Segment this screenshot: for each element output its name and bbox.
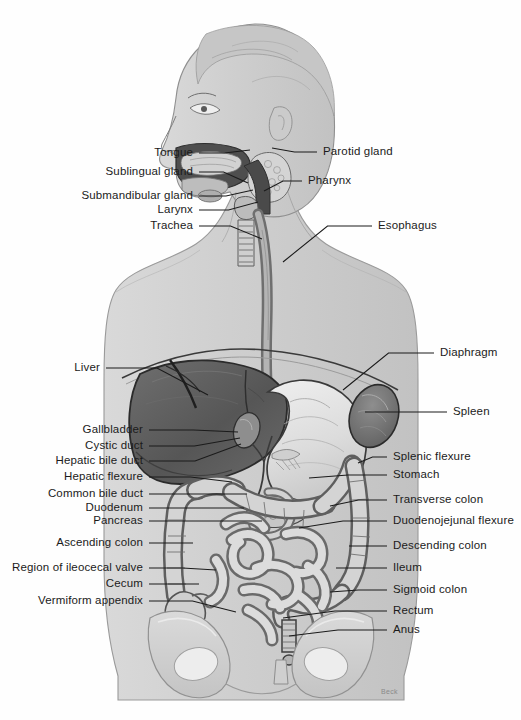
label-common-bile-duct: Common bile duct	[48, 488, 143, 500]
label-vermiform-appendix: Vermiform appendix	[38, 595, 143, 607]
label-trachea: Trachea	[150, 220, 193, 232]
label-diaphragm: Diaphragm	[440, 347, 498, 359]
anatomy-illustration	[0, 0, 521, 720]
label-anus: Anus	[393, 624, 420, 636]
trachea-region	[238, 220, 254, 266]
label-cecum: Cecum	[106, 578, 143, 590]
label-hepatic-flexure: Hepatic flexure	[64, 471, 143, 483]
label-splenic-flexure: Splenic flexure	[393, 451, 471, 463]
label-spleen: Spleen	[453, 406, 490, 418]
label-sublingual-gland: Sublingual gland	[106, 166, 193, 178]
label-submandibular-gland: Submandibular gland	[81, 190, 193, 202]
label-cystic-duct: Cystic duct	[85, 440, 143, 452]
label-rectum: Rectum	[393, 605, 434, 617]
label-sigmoid-colon: Sigmoid colon	[393, 584, 467, 596]
digestive-system-figure: TongueSublingual glandSubmandibular glan…	[0, 0, 521, 720]
label-hepatic-bile-duct: Hepatic bile duct	[55, 455, 143, 467]
label-tongue: Tongue	[154, 147, 193, 159]
label-ileum: Ileum	[393, 562, 422, 574]
label-pharynx: Pharynx	[308, 175, 351, 187]
label-descending-colon: Descending colon	[393, 540, 487, 552]
label-gallbladder: Gallbladder	[83, 424, 143, 436]
label-esophagus: Esophagus	[378, 220, 437, 232]
label-duodenum: Duodenum	[86, 502, 143, 514]
label-ascending-colon: Ascending colon	[56, 537, 143, 549]
label-transverse-colon: Transverse colon	[393, 494, 483, 506]
label-duodenojejunal-flexure: Duodenojejunal flexure	[393, 515, 514, 527]
label-stomach: Stomach	[393, 469, 439, 481]
artist-signature: Beck	[381, 688, 398, 695]
label-pancreas: Pancreas	[93, 515, 143, 527]
label-liver: Liver	[74, 362, 100, 374]
label-parotid-gland: Parotid gland	[323, 146, 393, 158]
label-region-of-ileocecal-valve: Region of ileocecal valve	[12, 562, 143, 574]
label-larynx: Larynx	[158, 204, 193, 216]
